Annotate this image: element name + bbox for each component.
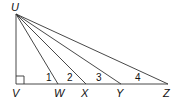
angle-label-2: 2 [67, 72, 73, 83]
label-X: X [80, 87, 89, 99]
segment-UZ [16, 14, 168, 84]
label-V: V [12, 87, 21, 99]
label-Z: Z [162, 87, 171, 99]
label-U: U [11, 1, 19, 13]
geometry-diagram: U V W X Y Z 1 2 3 4 [0, 0, 179, 102]
angle-label-3: 3 [96, 72, 102, 83]
label-Y: Y [116, 87, 124, 99]
angle-label-1: 1 [46, 72, 52, 83]
right-angle-marker [16, 76, 24, 84]
segment-UW [16, 14, 58, 84]
label-W: W [54, 87, 66, 99]
angle-label-4: 4 [135, 72, 141, 83]
